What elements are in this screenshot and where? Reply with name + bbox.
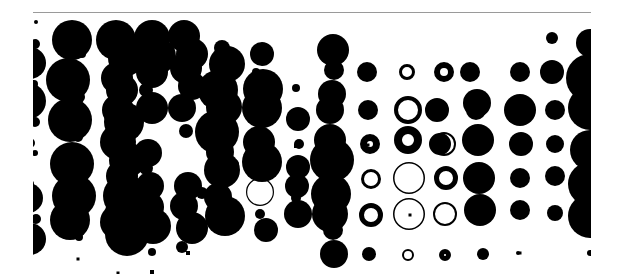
halftone-square [368,71,371,74]
halftone-dot [204,152,240,188]
halftone-ring [362,206,381,225]
halftone-dot [32,150,38,156]
halftone-ring [431,104,443,116]
halftone-dot [179,124,193,138]
halftone-square [367,144,370,147]
halftone-dot [176,212,208,244]
halftone-ring [435,139,446,150]
halftone-dot [545,166,565,186]
halftone-dot [136,92,168,124]
halftone-dot [510,200,530,220]
halftone-dot [254,218,278,242]
halftone-dot [136,56,168,88]
halftone-dot [78,50,86,58]
halftone-dot [545,100,565,120]
halftone-dot [323,220,343,240]
halftone-dot [34,20,38,24]
halftone-dot [504,94,536,126]
halftone-square [409,214,412,217]
halftone-square [150,270,154,274]
halftone-square [294,144,298,148]
halftone-dot [135,208,171,244]
halftone-dot [14,223,46,255]
halftone-ring [364,138,377,151]
halftone-dot [316,96,344,124]
halftone-ring [403,250,413,260]
halftone-dot [576,29,604,57]
halftone-ring [396,98,420,122]
halftone-dot [255,209,265,219]
halftone-dot [168,94,196,122]
halftone-dot [26,180,34,188]
halftone-dot [477,248,489,260]
halftone-dot [206,188,216,198]
halftone-dot [510,168,530,188]
halftone-dot [546,135,564,153]
halftone-ring [437,65,451,79]
halftone-ring [398,130,418,150]
halftone-dot [358,100,378,120]
halftone-dot [284,200,312,228]
halftone-ring [247,179,274,206]
halftone-square [79,235,82,238]
halftone-dot [463,89,491,117]
halftone-ring [394,163,425,194]
halftone-dot [73,132,83,142]
halftone-dot-artwork [0,0,625,274]
halftone-dot [13,183,43,213]
halftone-dot [462,124,494,156]
halftone-dot [242,88,282,128]
halftone-dot [14,47,46,79]
halftone-dot [587,250,593,256]
halftone-dot [30,39,40,49]
halftone-dot [242,142,282,182]
halftone-dot [568,194,612,238]
halftone-dot [30,117,40,127]
halftone-dot [286,107,310,131]
halftone-square [186,251,190,255]
halftone-dot [31,214,41,224]
halftone-dot [463,162,495,194]
halftone-dot [148,248,156,256]
halftone-dot [50,200,90,240]
halftone-square [77,258,80,261]
halftone-dot [510,62,530,82]
halftone-dot [324,60,344,80]
halftone-dot [540,60,564,84]
halftone-dot [460,62,480,82]
halftone-dot [320,240,348,268]
halftone-dot [30,226,38,234]
halftone-ring [363,171,380,188]
halftone-dot [568,86,612,130]
halftone-ring [401,66,414,79]
halftone-dot [547,205,563,221]
halftone-dot [205,196,245,236]
halftone-dot [546,32,558,44]
halftone-dot [48,98,92,142]
halftone-ring [434,203,456,225]
halftone-dot [509,132,533,156]
halftone-dot [229,159,239,169]
halftone-dot [362,247,376,261]
halftone-dot [357,62,377,82]
halftone-dot [10,83,46,119]
halftone-dot [464,194,496,226]
dot-layer [10,20,614,274]
halftone-square [519,252,522,255]
halftone-ring [437,169,456,188]
halftone-dot [250,42,274,66]
halftone-dot [292,84,300,92]
halftone-dot [25,138,35,148]
halftone-dot [516,73,519,76]
halftone-ring [442,252,449,259]
